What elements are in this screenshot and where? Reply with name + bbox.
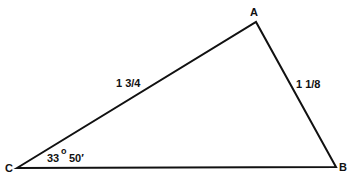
- vertex-label-c: C: [5, 163, 13, 174]
- degree-symbol: o: [61, 147, 67, 156]
- side-label-ab: 1 1/8: [296, 79, 320, 90]
- vertex-label-b: B: [339, 162, 347, 173]
- angle-c-minutes: 50′: [69, 153, 84, 164]
- side-label-ca: 1 3/4: [116, 78, 140, 89]
- triangle-diagram: A B C 1 3/4 1 1/8 33 o 50′: [0, 0, 348, 174]
- vertex-label-a: A: [250, 7, 258, 18]
- angle-c-degrees: 33: [47, 153, 59, 164]
